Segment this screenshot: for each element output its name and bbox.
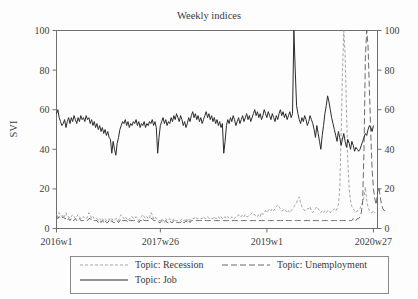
chart-figure: Weekly indices SVI 020406080100 02040608…	[0, 0, 418, 299]
x-tick-label: 2019w1	[251, 236, 283, 247]
series-line	[57, 31, 375, 221]
y-tick-label-left: 80	[40, 65, 50, 76]
y-tick-label-left: 40	[40, 144, 50, 155]
y-tick-label-left: 100	[35, 25, 50, 36]
y-axis-left-ticks: 020406080100	[35, 25, 57, 234]
series-lines	[57, 31, 387, 223]
chart-title: Weekly indices	[177, 10, 241, 21]
y-tick-label-left: 20	[40, 183, 50, 194]
legend-label: Topic: Unemployment	[277, 259, 367, 270]
legend-label: Topic: Job	[135, 274, 177, 285]
y-tick-label-right: 0	[385, 223, 390, 234]
y-tick-label-right: 100	[385, 25, 400, 36]
y-tick-label-right: 60	[385, 104, 395, 115]
y-tick-label-left: 60	[40, 104, 50, 115]
y-tick-label-left: 0	[45, 223, 50, 234]
legend-label: Topic: Recession	[135, 259, 203, 270]
y-tick-label-right: 20	[385, 183, 395, 194]
y-tick-label-right: 80	[385, 65, 395, 76]
x-tick-label: 2016w1	[40, 236, 72, 247]
y-axis-title: SVI	[8, 120, 19, 137]
x-axis-ticks: 2016w12017w262019w12020w27	[40, 229, 392, 247]
x-tick-label: 2017w26	[142, 236, 179, 247]
series-line	[57, 31, 374, 156]
legend-entries: Topic: RecessionTopic: UnemploymentTopic…	[80, 259, 367, 285]
y-tick-label-right: 40	[385, 144, 395, 155]
x-tick-label: 2020w27	[355, 236, 392, 247]
weekly-indices-chart: Weekly indices SVI 020406080100 02040608…	[0, 0, 418, 299]
